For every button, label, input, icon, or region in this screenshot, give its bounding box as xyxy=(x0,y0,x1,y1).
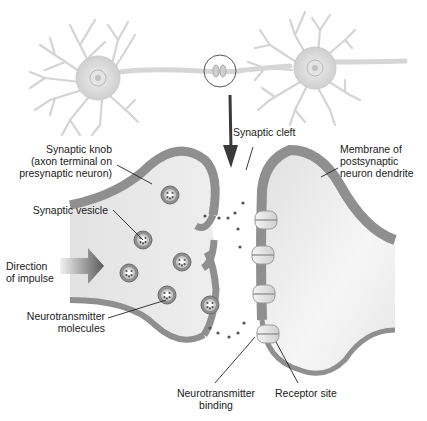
label-synaptic-knob: Synaptic knob (axon terminal on presynap… xyxy=(0,143,112,179)
label-synaptic-vesicle: Synaptic vesicle xyxy=(0,204,108,216)
label-synaptic-cleft: Synaptic cleft xyxy=(233,126,295,138)
postsynaptic-dendrite xyxy=(262,150,395,373)
label-direction-of-impulse: Direction of impulse xyxy=(6,260,54,284)
label-neurotransmitter-molecules: Neurotransmitter molecules xyxy=(0,310,105,334)
label-neurotransmitter-binding: Neurotransmitter binding xyxy=(170,387,262,411)
label-receptor-site: Receptor site xyxy=(275,387,337,399)
label-postsynaptic-membrane: Membrane of postsynaptic neuron dendrite xyxy=(340,143,414,179)
